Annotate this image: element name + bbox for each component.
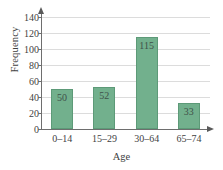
plot-area: 505211533	[41, 17, 210, 129]
gridline	[41, 33, 210, 34]
x-tick-label: 30–64	[126, 133, 168, 144]
x-axis-arrow-icon	[207, 126, 214, 132]
bar-value-label: 50	[52, 92, 72, 103]
y-axis-line	[41, 13, 42, 129]
y-tick-label: 40	[3, 92, 39, 103]
bar-value-label: 115	[137, 40, 157, 51]
y-tick-label: 80	[3, 60, 39, 71]
x-axis-title: Age	[33, 151, 210, 162]
bar-chart: Frequency 020406080100120140 505211533 0…	[0, 0, 223, 170]
bar: 52	[93, 87, 115, 129]
gridline	[41, 17, 210, 18]
y-tick-label: 20	[3, 108, 39, 119]
y-tick-label: 0	[3, 124, 39, 135]
y-tick-label: 60	[3, 76, 39, 87]
x-tick-label: 0–14	[41, 133, 83, 144]
y-tick-label: 140	[3, 12, 39, 23]
bar-value-label: 33	[179, 106, 199, 117]
gridline	[41, 49, 210, 50]
bar-value-label: 52	[94, 90, 114, 101]
bar: 50	[51, 89, 73, 129]
x-tick-label: 15–29	[83, 133, 125, 144]
gridline	[41, 65, 210, 66]
y-tick-label: 120	[3, 28, 39, 39]
x-tick-label: 65–74	[168, 133, 210, 144]
y-axis-ticks: 020406080100120140	[0, 0, 39, 170]
bar: 33	[178, 103, 200, 129]
x-axis-line	[41, 129, 209, 130]
gridline	[41, 81, 210, 82]
y-axis-arrow-icon	[38, 7, 44, 14]
y-tick-label: 100	[3, 44, 39, 55]
bar: 115	[136, 37, 158, 129]
